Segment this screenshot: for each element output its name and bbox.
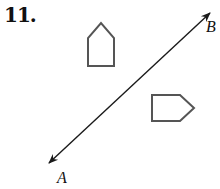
label-b: B bbox=[206, 18, 216, 35]
reflection-diagram: B A bbox=[0, 0, 220, 189]
upper-pentagon bbox=[88, 23, 114, 66]
line-ab bbox=[49, 13, 210, 163]
lower-pentagon bbox=[152, 95, 194, 121]
label-a: A bbox=[56, 169, 67, 186]
